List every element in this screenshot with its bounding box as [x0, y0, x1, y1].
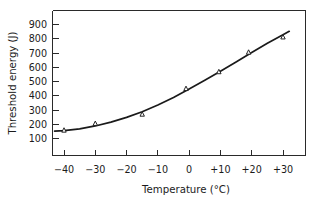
- y-axis-tick-labels: 900 800 700 600 500 400 300 200 100: [29, 19, 47, 144]
- x-tick-label-minus20: −20: [116, 164, 136, 175]
- y-tick-label-700: 700: [29, 48, 47, 59]
- x-axis-title: Temperature (°C): [141, 184, 230, 195]
- x-tick-label-minus30: −30: [85, 164, 105, 175]
- y-tick-label-400: 400: [29, 90, 47, 101]
- x-tick-label-minus10: −10: [148, 164, 168, 175]
- threshold-energy-plot: 900 800 700 600 500 400 300 200 100 −40 …: [0, 0, 326, 206]
- y-tick-label-200: 200: [29, 119, 47, 130]
- y-tick-label-800: 800: [29, 33, 47, 44]
- y-tick-label-300: 300: [29, 105, 47, 116]
- x-tick-label-plus10: +10: [210, 164, 230, 175]
- y-tick-label-100: 100: [29, 133, 47, 144]
- y-tick-label-500: 500: [29, 76, 47, 87]
- x-tick-label-minus40: −40: [54, 164, 74, 175]
- chart-figure: 900 800 700 600 500 400 300 200 100 −40 …: [0, 0, 326, 206]
- y-tick-label-900: 900: [29, 19, 47, 30]
- y-axis-title: Threshold energy (J): [7, 31, 18, 135]
- x-tick-label-plus30: +30: [273, 164, 293, 175]
- x-tick-label-zero: 0: [186, 164, 192, 175]
- y-tick-label-600: 600: [29, 62, 47, 73]
- x-tick-label-plus20: +20: [242, 164, 262, 175]
